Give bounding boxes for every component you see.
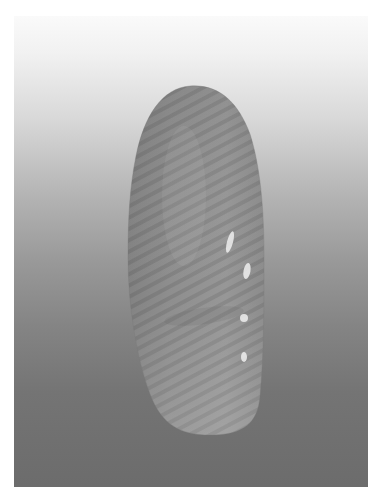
- seed-image: [14, 16, 368, 487]
- photograph: [14, 16, 368, 487]
